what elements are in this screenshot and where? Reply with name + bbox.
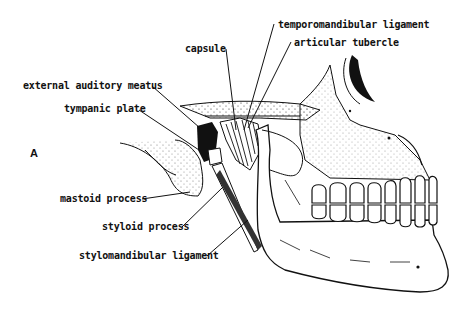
label-capsule: capsule [185,43,226,55]
teeth [312,176,437,227]
label-external-auditory-meatus: external auditory meatus [23,80,163,92]
skull-illustration [0,0,470,319]
mastoid-region [120,140,203,196]
label-stylomandibular-ligament: stylomandibular ligament [79,250,219,262]
label-temporomandibular-ligament: temporomandibular ligament [278,19,429,31]
label-mastoid-process: mastoid process [60,193,147,205]
tmj-capsule [197,118,262,170]
anatomy-figure: A temporomandibular ligament capsule art… [0,0,470,319]
label-articular-tubercle: articular tubercle [294,37,399,49]
label-tympanic-plate: tympanic plate [64,103,146,115]
maxilla [300,55,430,180]
panel-letter: A [30,147,38,159]
label-styloid-process: styloid process [102,221,189,233]
styloid-process-shape [212,163,262,252]
